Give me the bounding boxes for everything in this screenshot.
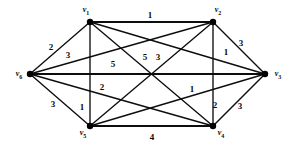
vertex-label-v4: v4 xyxy=(218,129,225,139)
vertex-label-v5: v5 xyxy=(80,129,87,139)
vertex-label-v6: v6 xyxy=(16,70,23,80)
vertex-label-sub-v6: 6 xyxy=(19,74,22,80)
vertex-label-sub-v3: 3 xyxy=(278,74,281,80)
edge-weight-v6-v3: 5 xyxy=(111,60,116,69)
edge-weight-v2-v4: 1 xyxy=(224,48,229,57)
edge-weight-v1-v3: 1 xyxy=(80,103,85,112)
edge-weight-v6-v4: 1 xyxy=(190,85,195,94)
graph-label-layer: 123315532131234v1v2v3v4v5v6 xyxy=(0,0,297,150)
vertex-label-v3: v3 xyxy=(275,70,282,80)
vertex-label-sub-v2: 2 xyxy=(218,10,221,16)
edge-weight-v1-v2: 1 xyxy=(148,11,153,20)
edge-weight-v2-v3: 3 xyxy=(239,39,244,48)
edge-weight-v1-v4: 5 xyxy=(143,53,148,62)
vertex-label-sub-v4: 4 xyxy=(221,133,224,139)
edge-weight-v1-v5: 2 xyxy=(100,83,105,92)
vertex-label-v1: v1 xyxy=(83,6,90,16)
edge-weight-v5-v4: 4 xyxy=(150,133,155,142)
edge-weight-v2-v5: 3 xyxy=(156,53,161,62)
vertex-label-v2: v2 xyxy=(215,6,222,16)
vertex-label-sub-v5: 5 xyxy=(83,133,86,139)
edge-weight-v1-v6: 2 xyxy=(49,43,54,52)
vertex-label-sub-v1: 1 xyxy=(86,10,89,16)
edge-weight-v2-v6: 3 xyxy=(66,51,71,60)
edge-weight-v6-v5: 3 xyxy=(51,100,56,109)
edge-weight-v3-v4: 3 xyxy=(238,102,243,111)
edge-weight-v3-v5: 2 xyxy=(213,101,218,110)
weighted-graph-figure: 123315532131234v1v2v3v4v5v6 xyxy=(0,0,297,150)
